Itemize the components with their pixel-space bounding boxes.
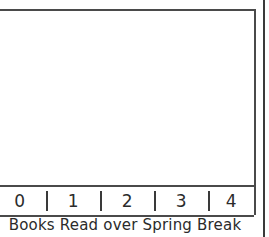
x-axis-tick-label-3: 3 (176, 193, 187, 210)
x-axis-cell-2: 2 (101, 187, 154, 215)
x-axis-tick-label-0: 0 (14, 193, 25, 210)
x-axis-tick-label-4: 4 (226, 193, 237, 210)
x-axis-cell-1: 1 (47, 187, 100, 215)
x-axis-tick-label-1: 1 (68, 193, 79, 210)
chart-frame: 0 1 2 3 4 (0, 9, 256, 215)
x-axis-cell-3: 3 (155, 187, 208, 215)
x-axis-tick-label-2: 2 (122, 193, 133, 210)
plot-area (0, 11, 254, 185)
worksheet-chart-screenshot: 0 1 2 3 4 Books Read over Spring Break (0, 0, 269, 237)
x-axis-cell-4: 4 (209, 187, 254, 215)
x-axis-label-band: 0 1 2 3 4 (0, 187, 254, 215)
page-edge-rule (263, 0, 265, 237)
x-axis-cell-0: 0 (0, 187, 46, 215)
chart-caption: Books Read over Spring Break (0, 218, 256, 233)
